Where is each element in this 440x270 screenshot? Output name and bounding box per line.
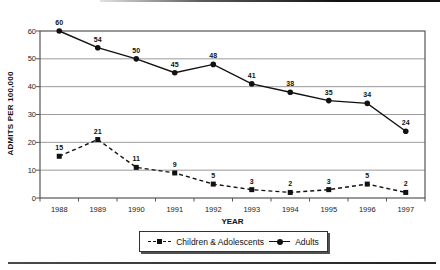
bottom-horizontal-rule: [8, 262, 436, 264]
x-tick-label: 1988: [43, 205, 75, 214]
square-marker-icon: [157, 239, 162, 244]
legend-label-adults: Adults: [295, 237, 319, 247]
y-tick-label: 0: [14, 194, 36, 203]
svg-text:24: 24: [402, 119, 410, 126]
svg-text:35: 35: [325, 89, 333, 96]
legend-sample-adults: [269, 237, 290, 246]
svg-text:54: 54: [94, 36, 102, 43]
legend-sample-children: [148, 237, 171, 246]
svg-text:15: 15: [55, 144, 63, 151]
x-tick-label: 1997: [390, 205, 422, 214]
legend-label-children: Children & Adolescents: [176, 237, 264, 247]
x-tick-label: 1989: [82, 205, 114, 214]
x-tick-label: 1991: [159, 205, 191, 214]
svg-text:48: 48: [209, 52, 217, 59]
y-tick-label: 40: [14, 82, 36, 91]
svg-text:34: 34: [363, 91, 371, 98]
svg-text:2: 2: [404, 180, 408, 187]
scanned-chart-page: ADMITS PER 100,000 152111953235260545045…: [0, 0, 440, 270]
x-tick-label: 1994: [274, 205, 306, 214]
svg-text:38: 38: [286, 80, 294, 87]
svg-text:5: 5: [211, 172, 215, 179]
y-tick-label: 30: [14, 110, 36, 119]
svg-text:5: 5: [365, 172, 369, 179]
svg-text:9: 9: [173, 161, 177, 168]
svg-text:45: 45: [171, 61, 179, 68]
y-tick-label: 60: [14, 27, 36, 36]
x-tick-label: 1992: [197, 205, 229, 214]
x-tick-label: 1990: [120, 205, 152, 214]
svg-text:21: 21: [94, 128, 102, 135]
x-tick-label: 1996: [351, 205, 383, 214]
y-tick-label: 20: [14, 138, 36, 147]
svg-text:41: 41: [248, 72, 256, 79]
y-tick-label: 50: [14, 54, 36, 63]
x-tick-label: 1993: [236, 205, 268, 214]
x-axis-title: YEAR: [40, 217, 425, 226]
chart-legend: Children & Adolescents Adults: [139, 231, 328, 252]
circle-marker-icon: [277, 239, 283, 245]
svg-text:3: 3: [250, 178, 254, 185]
svg-text:11: 11: [133, 155, 141, 162]
y-tick-label: 10: [14, 166, 36, 175]
svg-text:60: 60: [55, 19, 63, 26]
x-tick-label: 1995: [313, 205, 345, 214]
svg-text:3: 3: [327, 178, 331, 185]
svg-text:2: 2: [288, 180, 292, 187]
svg-text:50: 50: [132, 47, 140, 54]
